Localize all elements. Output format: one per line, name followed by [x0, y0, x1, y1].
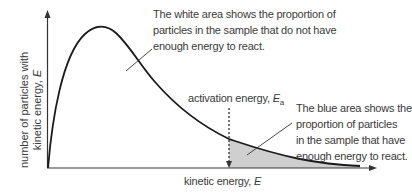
- white-area-annotation: The white area shows the proportion of p…: [153, 6, 336, 54]
- activation-energy-text: activation energy,: [188, 92, 273, 104]
- x-axis-symbol: E: [254, 175, 261, 187]
- y-axis-label: number of particles with kinetic energy,…: [18, 40, 44, 180]
- blue-area-pointer: [247, 123, 292, 155]
- blue-area-annotation: The blue area shows the proportion of pa…: [296, 100, 412, 164]
- white-area-line-3: enough energy to react.: [153, 38, 336, 54]
- y-axis-label-line2: kinetic energy, E: [31, 40, 44, 180]
- y-axis-arrow-icon: [45, 10, 51, 18]
- y-axis-label-line1: number of particles with: [18, 40, 31, 180]
- y-axis-symbol: E: [31, 70, 43, 77]
- white-area-line-2: particles in the sample that do not have: [153, 22, 336, 38]
- blue-area-line-3: in the sample that have: [296, 132, 412, 148]
- y-axis-label-text: kinetic energy,: [31, 77, 43, 150]
- activation-energy-symbol: E: [273, 92, 280, 104]
- blue-area-line-1: The blue area shows the: [296, 100, 412, 116]
- white-area-pointer: [126, 49, 152, 71]
- x-axis-label: kinetic energy, E: [184, 173, 261, 189]
- blue-area-line-4: enough energy to react.: [296, 148, 412, 164]
- activation-energy-label: activation energy, Ea: [188, 90, 284, 111]
- white-area-line-1: The white area shows the proportion of: [153, 6, 336, 22]
- x-axis-label-text: kinetic energy,: [184, 175, 254, 187]
- blue-area-line-2: proportion of particles: [296, 116, 412, 132]
- activation-energy-subscript: a: [280, 98, 284, 107]
- x-axis-arrow-icon: [369, 165, 377, 171]
